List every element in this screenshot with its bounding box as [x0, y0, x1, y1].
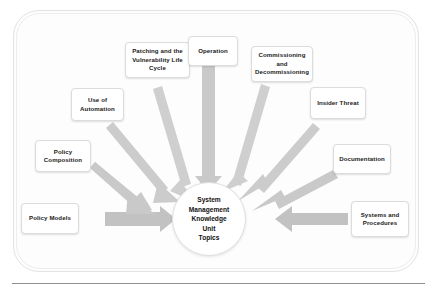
- node-label-use-of-automation: Use of Automation: [75, 96, 120, 113]
- hub-line-1: System: [189, 195, 229, 205]
- node-documentation[interactable]: Documentation: [333, 144, 391, 174]
- node-label-policy-composition: Policy Composition: [39, 148, 87, 165]
- node-label-insider-threat: Insider Threat: [317, 99, 359, 107]
- node-operation[interactable]: Operation: [188, 36, 238, 66]
- hub-line-3: Knowledge: [189, 214, 229, 224]
- node-label-commissioning: Commissioning and Decommissioning: [255, 51, 309, 76]
- hub-line-5: Topics: [189, 233, 229, 243]
- node-label-operation: Operation: [198, 47, 228, 55]
- hub-line-2: Management: [189, 205, 229, 215]
- hub-node[interactable]: System Management Knowledge Unit Topics: [172, 182, 246, 256]
- bottom-divider: [12, 283, 425, 284]
- arrow-systems-and-procedures: [275, 206, 348, 232]
- node-label-policy-models: Policy Models: [29, 214, 71, 222]
- node-patching[interactable]: Patching and the Vulnerability Life Cycl…: [125, 42, 190, 78]
- node-policy-models[interactable]: Policy Models: [21, 203, 79, 234]
- node-insider-threat[interactable]: Insider Threat: [310, 87, 366, 119]
- hub-label: System Management Knowledge Unit Topics: [189, 195, 229, 243]
- arrow-operation: [195, 66, 222, 192]
- node-label-documentation: Documentation: [339, 155, 385, 163]
- hub-line-4: Unit: [189, 224, 229, 234]
- node-systems-and-procedures[interactable]: Systems and Procedures: [351, 201, 409, 237]
- node-label-systems-and-procedures: Systems and Procedures: [355, 211, 405, 228]
- node-policy-composition[interactable]: Policy Composition: [35, 140, 91, 172]
- node-use-of-automation[interactable]: Use of Automation: [71, 88, 124, 121]
- node-commissioning[interactable]: Commissioning and Decommissioning: [251, 46, 313, 82]
- node-label-patching: Patching and the Vulnerability Life Cycl…: [129, 47, 186, 72]
- diagram-canvas: Patching and the Vulnerability Life Cycl…: [0, 0, 436, 294]
